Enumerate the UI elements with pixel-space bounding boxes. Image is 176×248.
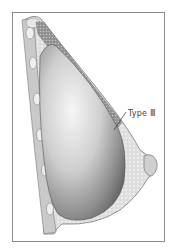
nipple [144, 155, 157, 176]
implant-type-label: Type Ⅲ [128, 109, 156, 118]
breast-implant-illustration [0, 0, 176, 248]
